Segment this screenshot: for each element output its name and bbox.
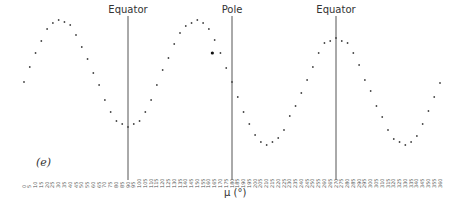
data-point (324, 42, 326, 44)
data-point (272, 141, 274, 143)
data-point (231, 81, 233, 83)
data-point (254, 134, 256, 136)
data-point (92, 72, 94, 74)
data-point (352, 52, 354, 54)
data-point (40, 40, 42, 42)
data-point (185, 25, 187, 27)
data-point (214, 39, 216, 41)
reference-lines: EquatorPoleEquator (108, 4, 356, 180)
data-point (422, 123, 424, 125)
panel-label: (e) (36, 156, 51, 169)
data-point (191, 22, 193, 24)
data-point (110, 111, 112, 113)
data-point (133, 123, 135, 125)
data-point (58, 19, 60, 21)
data-point (98, 84, 100, 86)
data-point (116, 120, 118, 122)
data-point (439, 82, 441, 84)
data-point (29, 66, 31, 68)
data-point (144, 111, 146, 113)
data-point (260, 141, 262, 143)
data-point (404, 144, 406, 146)
data-point (104, 99, 106, 101)
data-point (243, 111, 245, 113)
data-point (156, 84, 158, 86)
data-point (220, 52, 222, 54)
reference-line-label: Equator (316, 4, 356, 15)
reference-line-label: Pole (222, 4, 243, 15)
data-point (179, 32, 181, 34)
data-point (300, 92, 302, 94)
data-point (237, 96, 239, 98)
data-point (335, 37, 337, 39)
data-point (433, 96, 435, 98)
data-point (225, 67, 227, 69)
data-point (416, 135, 418, 137)
data-point (387, 129, 389, 131)
data-point (35, 52, 37, 54)
data-point (139, 120, 141, 122)
data-point (364, 79, 366, 81)
data-point (23, 81, 25, 83)
data-point (87, 58, 89, 60)
data-point (173, 43, 175, 45)
reference-line-label: Equator (108, 4, 148, 15)
data-point (277, 137, 279, 139)
data-point (358, 64, 360, 66)
highlighted-data-point (211, 51, 214, 54)
x-tick-label: 360 (437, 178, 443, 188)
data-point (283, 129, 285, 131)
data-point (150, 99, 152, 101)
data-point (318, 52, 320, 54)
data-point (248, 123, 250, 125)
data-point (69, 24, 71, 26)
data-point (52, 22, 54, 24)
data-point (393, 138, 395, 140)
data-point (399, 141, 401, 143)
data-point (162, 69, 164, 71)
data-point (196, 19, 198, 21)
data-point (410, 141, 412, 143)
data-point (306, 79, 308, 81)
data-point (121, 123, 123, 125)
data-point (289, 115, 291, 117)
data-point (127, 126, 129, 128)
data-point (295, 105, 297, 107)
data-point (64, 21, 66, 23)
data-point (329, 40, 331, 42)
chart: EquatorPoleEquator 051015202530354045505… (0, 0, 464, 204)
data-point (376, 105, 378, 107)
data-point (370, 90, 372, 92)
data-point (428, 110, 430, 112)
data-point (266, 144, 268, 146)
data-point (208, 28, 210, 30)
x-axis-title: μ (°) (224, 187, 246, 198)
data-point (347, 42, 349, 44)
data-point (202, 22, 204, 24)
data-point (381, 116, 383, 118)
data-point (46, 28, 48, 30)
data-point (81, 46, 83, 48)
data-point (312, 66, 314, 68)
data-point (168, 57, 170, 59)
data-point (341, 40, 343, 42)
data-point (75, 34, 77, 36)
